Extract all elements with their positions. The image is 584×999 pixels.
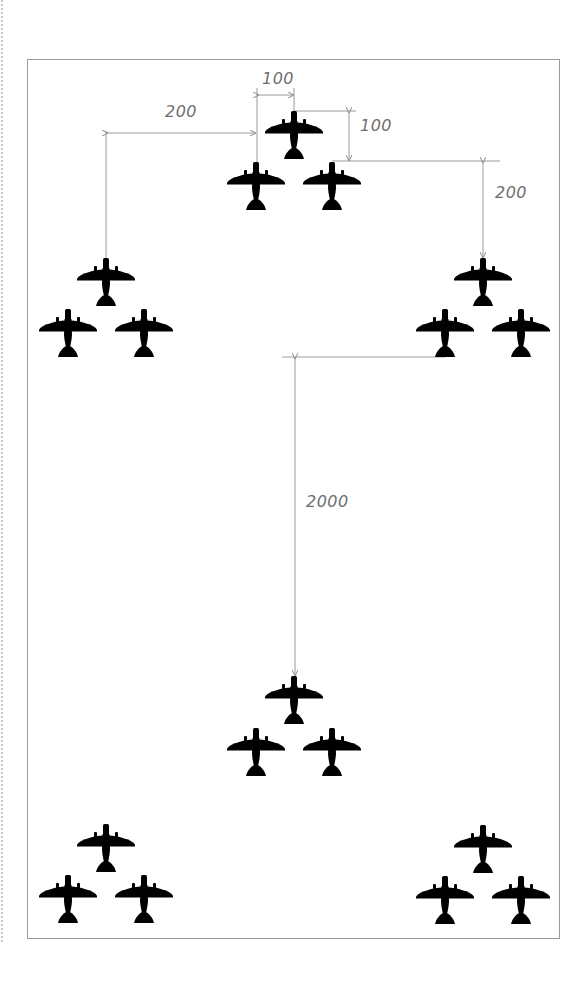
airplane-silhouette-icon [303, 728, 361, 776]
airplane-silhouette-icon [265, 111, 323, 159]
airplane-silhouette-icon [227, 162, 285, 210]
airplane-silhouette-icon [492, 876, 550, 924]
airplane-silhouette-icon [454, 825, 512, 873]
dimension-label-longitudinal-between-elements: 200 [495, 183, 527, 202]
airplane-silhouette-icon [115, 309, 173, 357]
airplane-silhouette-icon [39, 875, 97, 923]
airplane-silhouette-icon [77, 258, 135, 306]
airplane-silhouette-icon [454, 258, 512, 306]
airplane-silhouette-icon [227, 728, 285, 776]
dimension-label-lateral-in-element: 100 [262, 69, 294, 88]
airplane-silhouette-icon [265, 676, 323, 724]
dimension-label-longitudinal-in-element: 100 [360, 116, 392, 135]
dimension-label-lateral-between-elements: 200 [165, 102, 197, 121]
airplane-silhouette-icon [115, 875, 173, 923]
dimension-label-longitudinal-between-flights: 2000 [306, 492, 349, 511]
airplane-silhouette-icon [39, 309, 97, 357]
airplane-silhouette-icon [492, 309, 550, 357]
airplane-silhouette-icon [77, 824, 135, 872]
airplane-silhouette-icon [416, 876, 474, 924]
airplane-silhouette-icon [416, 309, 474, 357]
airplane-silhouette-icon [303, 162, 361, 210]
